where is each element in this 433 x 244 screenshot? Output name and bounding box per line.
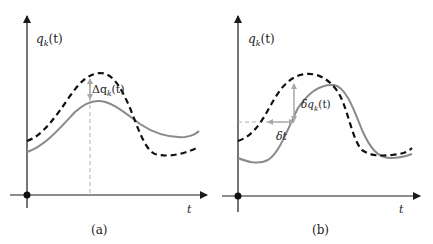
- origin-dot: [235, 193, 242, 200]
- y-axis-label: qk(t): [248, 32, 275, 48]
- delta-q-label: Δqk(t): [92, 83, 125, 98]
- delta-q-label: δqk(t): [301, 98, 331, 113]
- delta-t-label: δt: [276, 130, 288, 143]
- origin-dot: [24, 192, 31, 199]
- y-axis-label: qk(t): [36, 32, 63, 48]
- diagram-canvas: qk(t) Δqk(t) t (a) qk(t) δqk(t) δt t (b): [0, 0, 433, 244]
- solid-curve: [238, 85, 412, 163]
- caption-a: (a): [91, 223, 108, 237]
- solid-curve: [27, 101, 199, 152]
- panel-b: qk(t) δqk(t) δt t (b): [222, 16, 420, 237]
- x-axis-label: t: [399, 203, 404, 216]
- x-axis-label: t: [187, 203, 192, 216]
- panel-a: qk(t) Δqk(t) t (a): [10, 16, 207, 237]
- caption-b: (b): [312, 223, 329, 237]
